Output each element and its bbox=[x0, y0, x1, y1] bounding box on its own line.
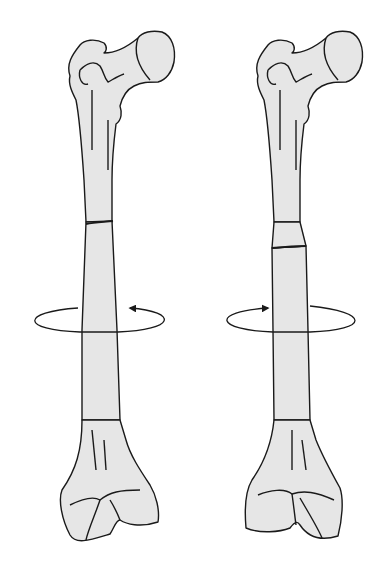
femur-rotation-figure bbox=[0, 0, 391, 578]
left-femur bbox=[60, 31, 174, 540]
left-femur-shaft bbox=[82, 221, 120, 420]
left-femur-head bbox=[69, 31, 175, 222]
left-femur-condyles bbox=[60, 420, 158, 541]
right-femur-condyles bbox=[245, 420, 342, 538]
right-femur-head bbox=[257, 31, 363, 222]
right-femur bbox=[245, 31, 362, 538]
right-femur-shaft bbox=[272, 246, 310, 420]
